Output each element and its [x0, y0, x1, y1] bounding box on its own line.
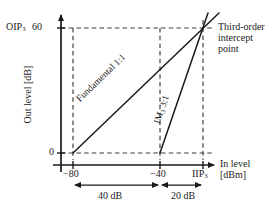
- x-axis-title-line2: [dBm]: [220, 169, 250, 180]
- third-order-intercept-chart: OIP3 60 0 Out level [dB] −80 −40 IIP3 In…: [0, 0, 280, 212]
- intercept-point-annotation: Third-order intercept point: [218, 21, 265, 55]
- x-axis-title: In level [dBm]: [220, 158, 250, 180]
- y-axis-title: Out level [dB]: [22, 50, 33, 140]
- annotation-line2: intercept: [218, 32, 265, 43]
- dimension-label-40db: 40 dB: [98, 190, 122, 201]
- x-axis-title-line1: In level: [220, 158, 250, 169]
- dimension-label-20db: 20 dB: [171, 190, 195, 201]
- curve-im3: [160, 13, 208, 153]
- oip3-axis-marker-label: OIP3: [6, 21, 26, 33]
- iip3-axis-marker-label: IIP3: [192, 168, 208, 180]
- annotation-line1: Third-order: [218, 21, 265, 32]
- annotation-line3: point: [218, 43, 265, 54]
- x-tick-label-minus80: −80: [63, 168, 79, 179]
- y-tick-label-60: 60: [32, 21, 42, 32]
- y-tick-label-0: 0: [49, 146, 54, 157]
- x-tick-label-minus40: −40: [150, 168, 166, 179]
